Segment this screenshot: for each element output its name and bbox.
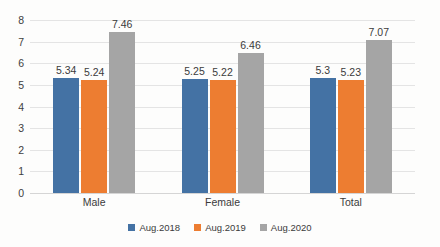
legend-swatch-icon bbox=[194, 224, 201, 231]
y-axis-tick-label: 0 bbox=[8, 187, 24, 199]
bar bbox=[81, 80, 107, 193]
y-axis-tick-label: 7 bbox=[8, 36, 24, 48]
bar bbox=[53, 78, 79, 193]
bar-group: 5.345.247.46 bbox=[53, 20, 135, 193]
gridline bbox=[30, 193, 415, 194]
x-axis-tick-label: Total bbox=[291, 196, 411, 208]
bar-group: 5.35.237.07 bbox=[310, 20, 392, 193]
legend-item[interactable]: Aug.2018 bbox=[128, 222, 180, 233]
bar bbox=[238, 53, 264, 193]
bar bbox=[210, 80, 236, 193]
legend-item[interactable]: Aug.2020 bbox=[260, 222, 312, 233]
legend-swatch-icon bbox=[260, 224, 267, 231]
bar bbox=[182, 79, 208, 193]
legend-swatch-icon bbox=[128, 224, 135, 231]
bar-group: 5.255.226.46 bbox=[182, 20, 264, 193]
legend-label: Aug.2020 bbox=[271, 222, 312, 233]
x-axis-tick-label: Male bbox=[34, 196, 154, 208]
bar bbox=[366, 40, 392, 193]
y-axis-tick-label: 1 bbox=[8, 165, 24, 177]
bar bbox=[310, 78, 336, 193]
legend-item[interactable]: Aug.2019 bbox=[194, 222, 246, 233]
y-axis-tick-label: 3 bbox=[8, 122, 24, 134]
legend-label: Aug.2018 bbox=[139, 222, 180, 233]
bar-value-label: 7.07 bbox=[359, 26, 399, 38]
legend: Aug.2018Aug.2019Aug.2020 bbox=[0, 222, 440, 233]
x-axis-tick-label: Female bbox=[163, 196, 283, 208]
bar-value-label: 6.46 bbox=[231, 39, 271, 51]
y-axis-tick-label: 8 bbox=[8, 14, 24, 26]
bar-value-label: 5.22 bbox=[203, 66, 243, 78]
bar bbox=[109, 32, 135, 193]
legend-label: Aug.2019 bbox=[205, 222, 246, 233]
y-axis-tick-label: 2 bbox=[8, 144, 24, 156]
bar-value-label: 5.24 bbox=[74, 66, 114, 78]
y-axis-tick-label: 6 bbox=[8, 57, 24, 69]
plot-area: 5.345.247.465.255.226.465.35.237.07 bbox=[30, 20, 415, 193]
bar-chart: 012345678 5.345.247.465.255.226.465.35.2… bbox=[0, 0, 440, 247]
y-axis-tick-label: 5 bbox=[8, 79, 24, 91]
bar bbox=[338, 80, 364, 193]
bar-value-label: 7.46 bbox=[102, 18, 142, 30]
y-axis-tick-label: 4 bbox=[8, 101, 24, 113]
bar-value-label: 5.23 bbox=[331, 66, 371, 78]
